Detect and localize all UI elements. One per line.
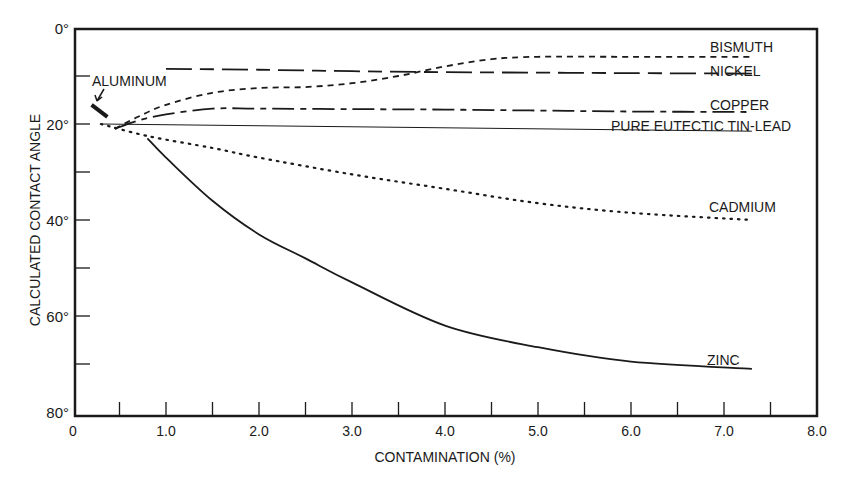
label-zinc: ZINC <box>707 352 740 368</box>
y-tick-label: 20° <box>46 116 69 133</box>
x-tick-label: 1.0 <box>156 423 176 439</box>
series-zinc <box>147 138 752 368</box>
chart-canvas: 01.02.03.04.05.06.07.08.00°20°40°60°80° … <box>0 0 843 478</box>
y-tick-label: 40° <box>46 212 69 229</box>
series-nickel <box>166 69 752 74</box>
x-tick-label: 8.0 <box>807 423 827 439</box>
y-tick-label: 80° <box>46 404 69 421</box>
label-nickel: NICKEL <box>710 63 761 79</box>
x-tick-label: 3.0 <box>342 423 362 439</box>
x-tick-label: 5.0 <box>528 423 548 439</box>
y-axis-title: CALCULATED CONTACT ANGLE <box>27 114 43 326</box>
x-axis-title: CONTAMINATION (%) <box>374 449 515 465</box>
x-tick-label: 0 <box>69 423 77 439</box>
series-aluminum <box>92 105 108 117</box>
x-tick-label: 7.0 <box>714 423 734 439</box>
plot-frame <box>75 29 817 416</box>
data-series <box>92 57 752 369</box>
label-tin-lead: PURE EUTECTIC TIN-LEAD <box>611 118 791 134</box>
contact-angle-chart: 01.02.03.04.05.06.07.08.00°20°40°60°80° … <box>0 0 843 478</box>
x-tick-label: 2.0 <box>249 423 269 439</box>
label-cadmium: CADMIUM <box>709 199 776 215</box>
x-tick-label: 4.0 <box>435 423 455 439</box>
x-tick-label: 6.0 <box>621 423 641 439</box>
y-tick-label: 0° <box>55 20 69 37</box>
label-aluminum: ALUMINUM <box>92 73 167 89</box>
label-bismuth: BISMUTH <box>710 39 773 55</box>
aluminum-arrow-icon <box>95 89 104 101</box>
plot-axes <box>75 29 817 416</box>
label-copper: COPPER <box>710 97 769 113</box>
series-cadmium <box>101 124 752 220</box>
y-tick-label: 60° <box>46 308 69 325</box>
